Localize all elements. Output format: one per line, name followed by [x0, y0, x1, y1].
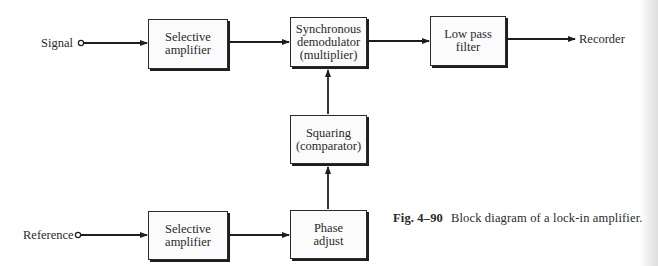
block-synchronous-demodulator: Synchronous demodulator (multiplier)	[290, 17, 367, 67]
block-squaring-comparator: Squaring (comparator)	[290, 115, 367, 164]
block-label: Selective amplifier	[165, 31, 211, 57]
figure-caption: Fig. 4–90Block diagram of a lock-in ampl…	[393, 211, 645, 226]
block-selective-amplifier-reference: Selective amplifier	[148, 211, 228, 260]
reference-input-terminal-icon	[75, 232, 80, 237]
caption-text: Block diagram of a lock-in amplifier.	[451, 211, 643, 225]
signal-input-label: Signal	[41, 36, 73, 50]
block-low-pass-filter: Low pass filter	[430, 16, 506, 66]
signal-input-terminal-icon	[78, 40, 83, 45]
block-selective-amplifier-signal: Selective amplifier	[148, 19, 228, 69]
block-label: Phase adjust	[314, 222, 344, 248]
block-phase-adjust: Phase adjust	[290, 210, 367, 259]
block-label: Selective amplifier	[165, 223, 211, 249]
block-label: Low pass filter	[444, 28, 492, 54]
recorder-output-label: Recorder	[579, 32, 625, 46]
block-label: Synchronous demodulator (multiplier)	[296, 23, 361, 62]
figure-number: Fig. 4–90	[393, 211, 443, 225]
reference-input-label: Reference	[23, 228, 74, 242]
block-label: Squaring (comparator)	[296, 127, 361, 153]
